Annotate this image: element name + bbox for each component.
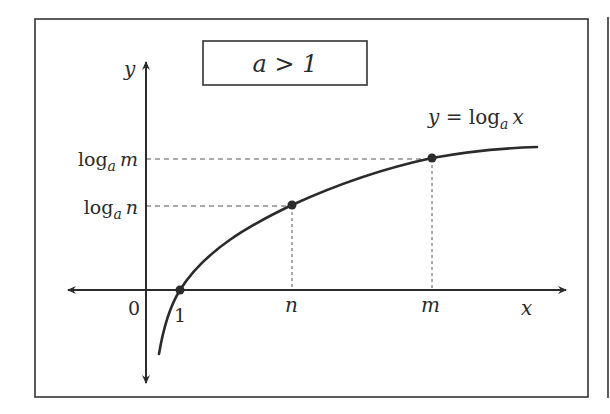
y-tick-log-m-var: m — [120, 148, 138, 170]
y-tick-log-n-var: n — [126, 196, 138, 218]
curve-label: y = logax — [427, 105, 524, 132]
y-tick-log-m-sub: a — [108, 158, 116, 174]
condition-text: a > 1 — [253, 50, 318, 78]
y-tick-log-m-prefix: log — [78, 148, 108, 170]
guide-lines — [146, 159, 432, 289]
x-tick-1: 1 — [174, 304, 186, 326]
x-tick-m: m — [421, 293, 440, 317]
x-axis-label: x — [521, 296, 532, 320]
y-tick-log-n-sub: a — [113, 206, 121, 222]
point-m — [428, 154, 437, 163]
point-one — [176, 286, 185, 295]
x-tick-n: n — [285, 293, 298, 317]
y-tick-log-n: logan — [84, 196, 138, 222]
curve-label-eq: = log — [439, 105, 500, 129]
condition-box: a > 1 — [203, 41, 367, 85]
curve-label-sub: a — [500, 116, 508, 132]
point-n — [288, 201, 297, 210]
origin-label: 0 — [128, 297, 140, 319]
curve-label-x: x — [512, 105, 523, 129]
y-tick-log-m: logam — [78, 148, 138, 174]
log-curve — [159, 147, 537, 354]
log-graph-figure: a > 1 y x 0 1 n m logam — [0, 0, 610, 414]
curve-label-y: y — [427, 105, 440, 129]
y-tick-log-n-prefix: log — [84, 196, 114, 218]
y-axis-label: y — [123, 57, 136, 81]
